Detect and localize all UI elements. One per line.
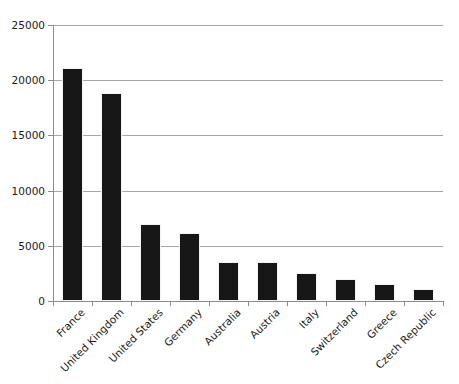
x-tick-mark — [287, 301, 288, 306]
y-tick-label: 0 — [0, 295, 45, 307]
x-tick-mark — [92, 301, 93, 306]
bar[interactable] — [413, 289, 434, 301]
gridline — [53, 80, 443, 81]
bar[interactable] — [140, 224, 161, 301]
x-tick-mark — [248, 301, 249, 306]
bar-chart: 0500010000150002000025000 FranceUnited K… — [0, 0, 459, 384]
bar[interactable] — [296, 273, 317, 301]
y-tick-label: 15000 — [0, 129, 45, 141]
x-tick-mark — [131, 301, 132, 306]
bar[interactable] — [335, 279, 356, 301]
y-tick-mark — [48, 191, 53, 192]
bar[interactable] — [218, 262, 239, 301]
y-tick-label: 20000 — [0, 74, 45, 86]
x-tick-mark — [326, 301, 327, 306]
bar[interactable] — [101, 93, 122, 301]
x-tick-mark — [53, 301, 54, 306]
x-tick-mark — [443, 301, 444, 306]
gridline — [53, 25, 443, 26]
x-tick-mark — [170, 301, 171, 306]
y-tick-label: 10000 — [0, 185, 45, 197]
y-tick-mark — [48, 80, 53, 81]
bar[interactable] — [62, 68, 83, 301]
bar[interactable] — [257, 262, 278, 301]
y-tick-mark — [48, 246, 53, 247]
y-tick-label: 5000 — [0, 240, 45, 252]
y-tick-mark — [48, 135, 53, 136]
bar[interactable] — [179, 233, 200, 301]
plot-area — [53, 25, 443, 301]
x-tick-mark — [209, 301, 210, 306]
bar[interactable] — [374, 284, 395, 301]
y-tick-mark — [48, 25, 53, 26]
y-axis-line — [53, 25, 54, 302]
x-tick-mark — [365, 301, 366, 306]
x-tick-mark — [404, 301, 405, 306]
y-tick-label: 25000 — [0, 19, 45, 31]
